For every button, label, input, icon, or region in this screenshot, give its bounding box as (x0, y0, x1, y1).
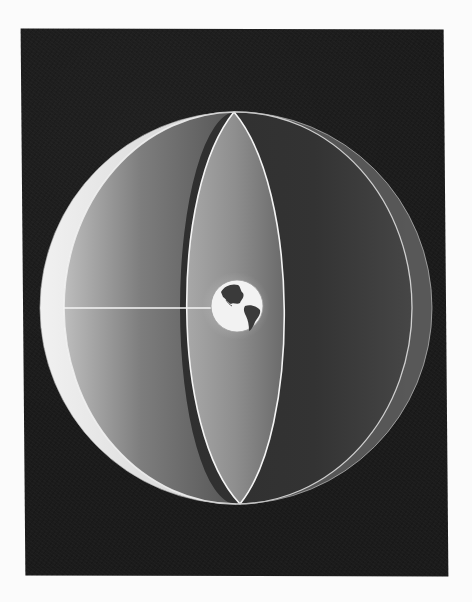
faint-caption-bleed (30, 582, 445, 594)
earth-globe (211, 280, 263, 332)
sphere-illustration (0, 0, 472, 602)
